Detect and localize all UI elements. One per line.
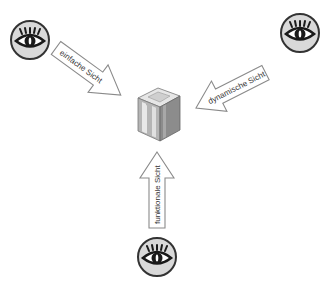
label-einfache-sicht: einfache Sicht [58,48,105,85]
eye-icon-funktionale [138,238,176,276]
label-dynamische-sicht: dynamische Sicht [207,69,268,106]
eye-icon-dynamische [281,14,319,52]
view-diagram: einfache Sicht dynamische Sicht funktion… [0,0,329,287]
label-funktionale-sicht: funktionale Sicht [153,165,162,224]
server-cube-icon [138,88,180,141]
arrow-einfache-sicht: einfache Sicht [46,34,131,109]
eye-icon-einfache [11,21,49,59]
arrow-dynamische-sicht: dynamische Sicht [188,57,273,123]
